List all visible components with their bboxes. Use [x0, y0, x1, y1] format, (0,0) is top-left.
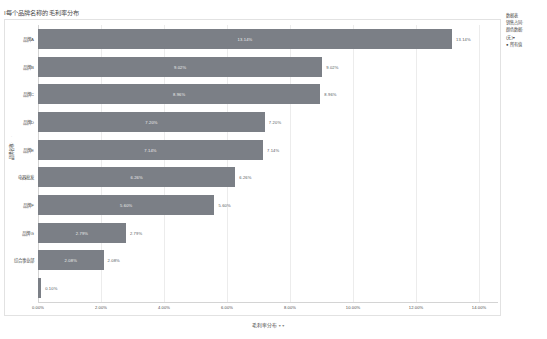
y-axis-tick-label: 电器批发 [18, 174, 34, 180]
bar-row[interactable]: 2.08%2.08% [38, 250, 498, 270]
bar-row[interactable]: 2.79%2.79% [38, 223, 498, 243]
bar-row[interactable]: 7.20%7.20% [38, 112, 498, 132]
y-axis-tick-label: 品牌E [23, 147, 34, 153]
x-axis-tick-label: 8.00% [284, 305, 296, 310]
legend-panel[interactable]: 数据表销售占同·颜色数据:(无)▾● 所有值 [506, 12, 546, 48]
bar-row[interactable]: 9.02%9.02% [38, 57, 498, 77]
y-axis-tick-label: 品牌F [23, 202, 34, 208]
y-axis-tick-labels: 品牌A品牌B品牌C品牌D品牌E电器批发品牌F品牌G综合事业部 [0, 25, 36, 302]
x-axis-tick-label: 2.00% [95, 305, 107, 310]
bar-row[interactable]: 7.14%7.14% [38, 140, 498, 160]
legend-line[interactable]: (无)▾ [506, 34, 546, 41]
x-axis-title[interactable]: 毛利率分布▾ ▾ [252, 321, 285, 328]
x-axis-tick-label: 6.00% [221, 305, 233, 310]
page-title: I每个品牌名称的毛利率分布 [4, 9, 79, 17]
bar-value-label-inside: 9.02% [174, 64, 186, 69]
bar-row[interactable]: 0.10% [38, 278, 498, 298]
bar-value-label-inside: 2.79% [76, 230, 88, 235]
bar-value-label-end: 0.10% [45, 286, 57, 291]
y-axis-tick-label: 品牌B [23, 64, 34, 70]
x-axis-tick-label: 12.00% [409, 305, 423, 310]
y-axis-tick-label: 品牌A [23, 36, 34, 42]
bar[interactable] [38, 278, 41, 298]
bar-value-label-end: 5.60% [218, 203, 230, 208]
x-axis-line [38, 302, 498, 303]
bar-row[interactable]: 8.96%8.96% [38, 84, 498, 104]
bar-value-label-end: 8.96% [324, 92, 336, 97]
y-axis-tick-label: 品牌G [22, 230, 34, 236]
x-axis-tick-label: 0.00% [32, 305, 44, 310]
bar-value-label-end: 7.20% [269, 119, 281, 124]
legend-line[interactable]: 颜色数据: [506, 26, 546, 33]
bar-value-label-inside: 5.60% [120, 203, 132, 208]
bar-value-label-inside: 7.14% [144, 147, 156, 152]
bar-value-label-inside: 13.14% [238, 36, 253, 41]
x-axis-tick-labels: 0.00%2.00%4.00%6.00%8.00%10.00%12.00%14.… [38, 305, 498, 315]
y-axis-title[interactable]: 品牌名称 [8, 144, 14, 161]
bar-series[interactable]: 13.14%13.14%9.02%9.02%8.96%8.96%7.20%7.2… [38, 25, 498, 302]
bar-value-label-end: 2.79% [130, 230, 142, 235]
bar-value-label-inside: 6.26% [130, 175, 142, 180]
y-axis-tick-label: 品牌D [23, 119, 34, 125]
bar-row[interactable]: 5.60%5.60% [38, 195, 498, 215]
bar-value-label-inside: 8.96% [173, 92, 185, 97]
bar-row[interactable]: 6.26%6.26% [38, 167, 498, 187]
chevron-down-icon[interactable]: ▾ ▾ [279, 323, 285, 328]
x-axis-tick-label: 10.00% [346, 305, 360, 310]
bar-value-label-end: 9.02% [326, 64, 338, 69]
bar-value-label-inside: 2.08% [65, 258, 77, 263]
y-axis-tick-label: 品牌C [23, 91, 34, 97]
x-axis-title-text: 毛利率分布 [252, 323, 278, 328]
bar-row[interactable]: 13.14%13.14% [38, 29, 498, 49]
legend-line[interactable]: 数据表 [506, 12, 546, 19]
legend-line[interactable]: ● 所有值 [506, 41, 546, 48]
bar-value-label-end: 13.14% [456, 36, 471, 41]
y-axis-tick-label: 综合事业部 [14, 257, 35, 263]
legend-line[interactable]: 销售占同· [506, 19, 546, 26]
bar-value-label-end: 2.08% [108, 258, 120, 263]
bar-value-label-end: 6.26% [239, 175, 251, 180]
bar-value-label-inside: 7.20% [145, 119, 157, 124]
x-axis-tick-label: 4.00% [158, 305, 170, 310]
bar-value-label-end: 7.14% [267, 147, 279, 152]
x-axis-tick-label: 14.00% [472, 305, 486, 310]
